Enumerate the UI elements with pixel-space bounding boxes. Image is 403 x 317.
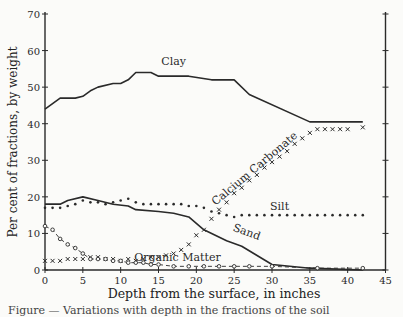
annotations: ClaySiltSandCalcium CarbonateOrganic Mat… (134, 55, 300, 264)
label-organic-matter: Organic Matter (134, 251, 221, 264)
axes: 010203040506070051015202530354045 (27, 9, 392, 286)
label-sand: Sand (231, 221, 262, 243)
x-tick-label: 45 (379, 275, 392, 286)
series-silt (44, 197, 364, 218)
y-tick-label: 50 (27, 82, 40, 93)
y-tick-label: 10 (27, 228, 40, 239)
x-tick-label: 25 (228, 275, 241, 286)
x-tick-label: 15 (152, 275, 165, 286)
x-tick-label: 30 (266, 275, 279, 286)
y-tick-label: 40 (27, 119, 40, 130)
y-tick-label: 0 (34, 265, 40, 276)
y-tick-label: 20 (27, 192, 40, 203)
x-axis-label: Depth from the surface, in inches (108, 286, 321, 301)
series-calcium-carbonate (43, 125, 365, 262)
x-tick-label: 0 (42, 275, 48, 286)
x-tick-label: 5 (80, 275, 86, 286)
figure-caption: Figure — Variations with depth in the fr… (8, 304, 330, 317)
x-tick-label: 35 (303, 275, 316, 286)
label-silt: Silt (270, 200, 290, 213)
y-tick-label: 30 (27, 155, 40, 166)
series-layer (43, 73, 365, 270)
x-tick-label: 20 (190, 275, 203, 286)
y-tick-label: 60 (27, 46, 40, 57)
x-tick-label: 10 (114, 275, 127, 286)
series-clay (45, 73, 363, 122)
y-axis-label: Per cent of fractions, by weight (6, 46, 20, 237)
label-calcium-carbonate: Calcium Carbonate (209, 129, 300, 208)
x-tick-label: 40 (341, 275, 354, 286)
y-tick-label: 70 (27, 9, 40, 20)
label-clay: Clay (161, 55, 186, 68)
